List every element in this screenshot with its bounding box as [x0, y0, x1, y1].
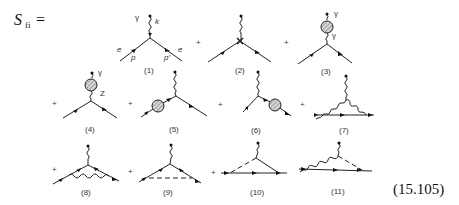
photon-line: [174, 73, 177, 96]
fi-subscript: fi: [25, 20, 31, 30]
diagram-label: (10): [250, 188, 265, 197]
photon-line: [338, 144, 341, 156]
photon-line: [257, 73, 260, 96]
diagram-label: (11): [331, 187, 345, 196]
gamma-outer-label: γ: [334, 9, 338, 18]
equation-lhs: S fi =: [14, 11, 45, 30]
photon-line: [240, 17, 243, 41]
diagram-3: γ γ (3): [298, 9, 352, 76]
photon-line: [92, 74, 93, 78]
diagram-label: (9): [163, 188, 173, 197]
electron-internal-arrow-icon: [158, 168, 163, 172]
plus-sign: +: [300, 100, 305, 109]
photon-endpoint-dot: [149, 15, 152, 18]
internal-photon-line: [68, 174, 109, 178]
electron-internal-arrow-icon: [263, 98, 268, 102]
photon-line-inner: [326, 33, 329, 44]
diagram-label: (4): [85, 125, 95, 134]
mixing-blob: [85, 79, 97, 91]
s-symbol: S: [14, 11, 22, 28]
photon-arrow-icon: [148, 33, 152, 36]
self-energy-blob: [152, 100, 164, 112]
plus-sign: +: [128, 167, 133, 176]
photon-line-outer: [327, 15, 328, 20]
counterterm-cross-icon: [237, 38, 243, 44]
e-out-label: e: [178, 45, 183, 54]
gauge-boson-line-right: [346, 100, 366, 115]
electron-in-arrow-icon: [314, 113, 318, 117]
internal-scalar-line: [338, 156, 362, 170]
diagram-label: (2): [235, 66, 245, 75]
plus-sign: +: [284, 38, 289, 47]
electron-internal-arrow-icon: [333, 168, 338, 172]
feynman-diagram-figure: S fi = γ k e p p′ e (1) + (2) +: [0, 0, 459, 205]
plus-sign: +: [52, 165, 57, 174]
diagram-7: (7): [314, 75, 374, 136]
electron-out-arrow-icon: [368, 113, 373, 117]
plus-sign: +: [211, 168, 216, 177]
diagram-5: (5): [141, 71, 207, 135]
diagram-8: (8): [53, 145, 119, 198]
photon-line: [170, 146, 173, 164]
diagram-label: (8): [81, 188, 91, 197]
photon-line: [256, 144, 259, 158]
electron-out-arrow-icon: [112, 177, 117, 181]
photon-line: [87, 147, 90, 165]
plus-sign: +: [128, 99, 133, 108]
electron-in-arrow-icon: [73, 109, 78, 113]
diagram-label: (3): [321, 67, 331, 76]
diagram-2: (2): [208, 15, 271, 76]
internal-scalar-line-left: [230, 158, 256, 173]
z-boson-line: [90, 91, 93, 101]
e-in-label: e: [117, 45, 122, 54]
photon-line: [345, 77, 348, 100]
plus-sign: +: [52, 99, 57, 108]
p-prime-label: p′: [163, 53, 170, 62]
gamma-label: γ: [135, 13, 139, 22]
plus-sign: +: [218, 100, 223, 109]
plus-sign: +: [196, 38, 201, 47]
electron-out-arrow-icon: [276, 171, 281, 175]
gamma-inner-label: γ: [332, 31, 336, 40]
electron-in-arrow-icon: [224, 171, 229, 175]
gamma-label: γ: [98, 68, 102, 77]
diagram-label: (5): [169, 125, 179, 134]
diagram-11: (11): [299, 142, 372, 197]
electron-out-arrow-icon: [255, 50, 260, 54]
equals-sign: =: [36, 11, 45, 28]
diagram-label: (1): [144, 66, 154, 75]
electron-internal-arrow-icon: [340, 113, 345, 117]
equation-number: (15.105): [393, 181, 444, 198]
diagram-1: γ k e p p′ e (1): [117, 13, 183, 75]
p-label: p: [130, 53, 136, 62]
electron-internal-arrow-icon: [179, 168, 184, 172]
diagram-label: (6): [251, 126, 261, 135]
electron-internal-arrow-icon: [252, 171, 257, 175]
internal-line-right: [256, 158, 279, 173]
diagram-4: γ Z (4): [63, 68, 117, 134]
diagram-6: (6): [243, 71, 291, 136]
z-label: Z: [100, 89, 105, 98]
diagram-label: (7): [339, 126, 349, 135]
diagram-10: (10): [221, 142, 287, 198]
electron-in-line: [243, 96, 258, 112]
electron-in-arrow-icon: [220, 51, 225, 55]
self-energy-blob: [269, 99, 281, 111]
k-label: k: [155, 17, 160, 26]
diagram-9: (9): [139, 144, 201, 198]
photon-endpoint-dot: [240, 15, 243, 18]
